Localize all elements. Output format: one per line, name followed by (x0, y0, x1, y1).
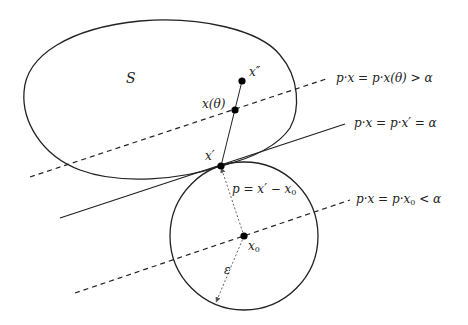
diagram-canvas (0, 0, 468, 325)
lower-hyperplane-line (75, 200, 350, 293)
x-prime-label: x′ (205, 150, 215, 162)
epsilon-label: ε (224, 264, 230, 276)
set-s-label: S (126, 71, 136, 85)
radius-epsilon-line (217, 236, 244, 300)
point-x-double-prime (238, 77, 245, 84)
point-x-theta (231, 106, 238, 113)
segment-xprime-xdoubleprime (221, 81, 242, 166)
vector-p-label: p = x′ − x0 (232, 183, 296, 197)
set-s-boundary (24, 20, 297, 179)
lower-hyperplane-label: p·x = p·x0 < α (356, 193, 441, 207)
x0-label: x0 (248, 240, 260, 254)
point-x0 (240, 232, 247, 239)
point-x-prime (217, 162, 224, 169)
upper-hyperplane-label: p·x = p·x(θ) > α (336, 72, 433, 84)
x-theta-label: x(θ) (202, 98, 225, 110)
supporting-hyperplane-label: p·x = p·x′ = α (354, 117, 437, 129)
x-double-prime-label: x″ (249, 66, 260, 78)
vector-p-line (222, 170, 244, 236)
upper-hyperplane-line (30, 79, 326, 177)
supporting-hyperplane-line (60, 124, 345, 218)
